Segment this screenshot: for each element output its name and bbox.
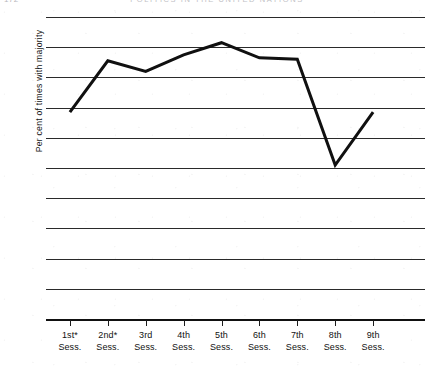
plot-area bbox=[46, 17, 425, 319]
x-label-line1: 4th bbox=[177, 330, 190, 340]
line-series bbox=[46, 17, 425, 319]
x-label-line1: 5th bbox=[215, 330, 228, 340]
y-axis-title: Per cent of times with majority bbox=[34, 16, 44, 166]
x-label-line1: 3rd bbox=[139, 330, 152, 340]
x-label-line1: 2nd* bbox=[98, 330, 117, 340]
x-axis-tick-mark bbox=[297, 320, 298, 326]
x-axis-tick-mark bbox=[108, 320, 109, 326]
x-label-line1: 7th bbox=[291, 330, 304, 340]
x-label-line1: 8th bbox=[329, 330, 342, 340]
x-label-line1: 1st* bbox=[62, 330, 78, 340]
figure-page: 172 POLITICS IN THE UNITED NATIONS Per c… bbox=[0, 0, 434, 366]
x-label-line1: 6th bbox=[253, 330, 266, 340]
x-label-line1: 9th bbox=[367, 330, 380, 340]
x-axis-tick-mark bbox=[146, 320, 147, 326]
x-axis-tick-mark bbox=[259, 320, 260, 326]
x-label-line2: Sess. bbox=[346, 342, 400, 354]
x-axis-line bbox=[46, 319, 425, 321]
x-axis-tick-mark bbox=[335, 320, 336, 326]
x-axis-tick-mark bbox=[373, 320, 374, 326]
x-axis-tick-mark bbox=[70, 320, 71, 326]
x-axis-tick-label: 9thSess. bbox=[346, 330, 400, 353]
running-head-title: POLITICS IN THE UNITED NATIONS bbox=[0, 0, 434, 4]
running-head: 172 POLITICS IN THE UNITED NATIONS bbox=[0, 0, 434, 5]
x-axis-tick-mark bbox=[222, 320, 223, 326]
x-axis-tick-mark bbox=[184, 320, 185, 326]
series-polyline bbox=[70, 43, 373, 165]
